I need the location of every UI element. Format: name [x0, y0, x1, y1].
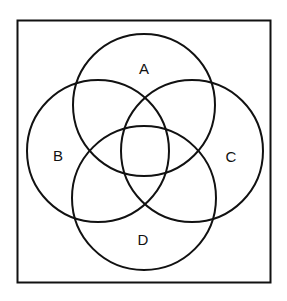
label-d: D: [138, 231, 149, 248]
label-c: C: [226, 148, 237, 165]
venn-diagram: A B C D: [0, 0, 287, 301]
circle-a: [73, 34, 215, 176]
circle-d: [72, 126, 216, 270]
label-a: A: [139, 60, 149, 77]
label-b: B: [53, 147, 63, 164]
circle-b: [27, 80, 169, 222]
circle-c: [121, 80, 263, 222]
